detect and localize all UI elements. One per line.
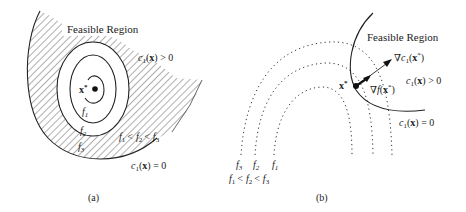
constraint-positive-label-b: c1(x) > 0 [406,75,441,88]
grad-c-label: ∇c1(x*) [394,51,424,65]
panel-a: Feasible Region c1(x) > 0 c1(x) = 0 x* f… [27,11,202,204]
caption-a: (a) [88,192,99,204]
feasible-region-label-b: Feasible Region [367,31,439,43]
ordering-label-b: f1<f2<f3 [229,173,270,186]
contour-f2-b [255,63,373,155]
optimum-point-a [92,86,98,92]
contour-label-f1-b: f1 [272,159,278,172]
grad-f-label: ∇f(x*) [370,83,395,96]
contour-label-f2-b: f2 [253,159,260,172]
diagram-canvas: Feasible Region c1(x) > 0 c1(x) = 0 x* f… [0,0,466,212]
contour-label-f3-b: f3 [236,159,243,172]
optimum-point-b [353,83,359,89]
contour-f1-b [274,87,352,155]
caption-b: (b) [316,192,328,204]
grad-c-arrowhead [383,59,392,67]
constraint-zero-label-b: c1(x) = 0 [399,117,434,130]
feasible-region-label-a: Feasible Region [67,23,139,35]
optimum-label-b: x* [339,79,348,91]
panel-b: Feasible Region ∇c1(x*) ∇f(x*) c1(x) > 0… [229,13,441,204]
constraint-zero-label-a: c1(x) = 0 [131,160,166,173]
contour-f3-b [241,42,392,155]
